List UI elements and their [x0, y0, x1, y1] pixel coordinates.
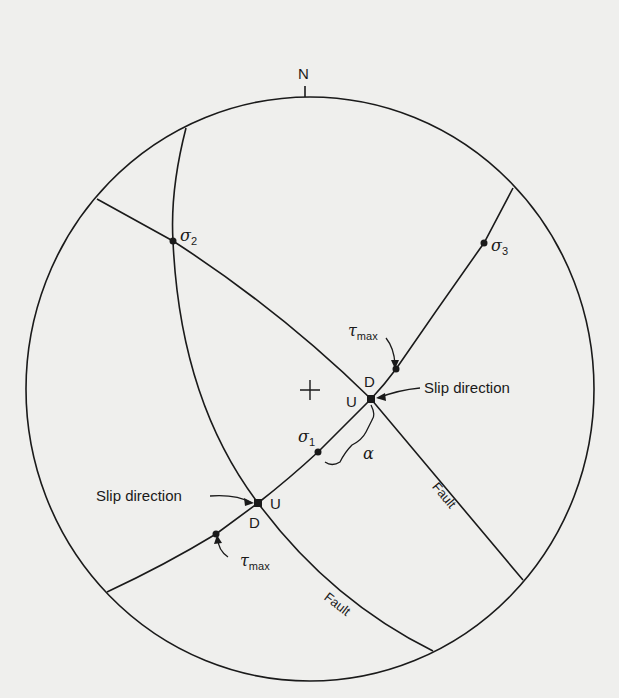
north-label: N — [298, 66, 309, 81]
sigma3-point — [481, 240, 488, 247]
tau-symbol: τ — [348, 321, 357, 340]
sigma3-label: σ3 — [491, 238, 508, 254]
tau-sub: max — [357, 330, 378, 342]
sigma2-sub: 2 — [191, 235, 197, 247]
sigma1-sub: 1 — [309, 436, 315, 448]
slip-lower-label: Slip direction — [96, 488, 182, 503]
slip-upper-point — [367, 395, 375, 403]
slip-lower-down-label: D — [249, 515, 260, 530]
sigma2-symbol: σ — [180, 226, 191, 245]
sigma3-sub: 3 — [502, 245, 508, 257]
arrowhead-slip-lower — [244, 498, 254, 506]
sigma1-point — [315, 449, 322, 456]
tau-max-lower-point — [213, 531, 220, 538]
arrowhead-slip-upper — [376, 393, 386, 401]
sigma1-symbol: σ — [298, 427, 309, 446]
slip-upper-up-label: U — [346, 394, 357, 409]
center-cross — [300, 380, 320, 400]
tau-max-lower-label: τmax — [240, 553, 270, 569]
tau-sub: max — [249, 560, 270, 572]
sigma3-symbol: σ — [491, 236, 502, 255]
sigma1-label: σ1 — [298, 429, 315, 445]
sigma2-point — [170, 238, 177, 245]
tau-symbol: τ — [240, 551, 249, 570]
slip-lower-up-label: U — [270, 496, 281, 511]
sigma2-label: σ2 — [180, 228, 197, 244]
slip-upper-down-label: D — [364, 374, 375, 389]
slip-lower-point — [254, 499, 262, 507]
stereonet-drawing — [0, 0, 619, 698]
alpha-label: α — [363, 446, 374, 462]
slip-upper-label: Slip direction — [424, 380, 510, 395]
tau-max-upper-label: τmax — [348, 323, 378, 339]
